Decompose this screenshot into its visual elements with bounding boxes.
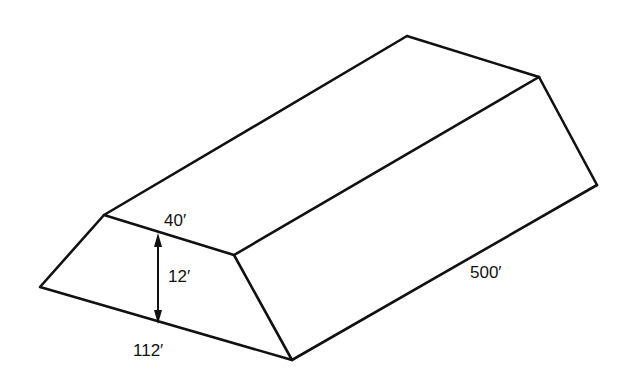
top-width-label: 40′ [164,212,186,229]
top-back-edge [407,36,539,77]
top-right-edge [234,77,539,255]
bottom-width-label: 112′ [133,342,163,359]
diagram-canvas: 40′ 12′ 112′ 500′ [0,0,630,391]
height-label: 12′ [168,268,190,285]
back-slope-edge [539,77,597,185]
length-label: 500′ [470,264,502,281]
height-dimension-arrow [154,233,162,324]
trapezoidal-prism-drawing [0,0,630,391]
bottom-right-edge [292,185,597,360]
top-left-edge [104,36,407,215]
front-trapezoid-face [40,215,292,360]
